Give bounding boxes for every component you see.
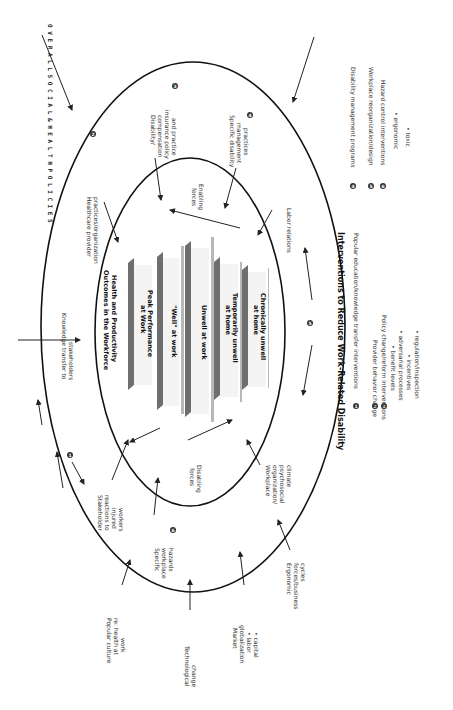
badge-3: 3: [172, 83, 178, 89]
svg-text:5: 5: [369, 184, 372, 189]
legend-item-1: 1 Popular education/knowledge transfer i…: [352, 233, 360, 409]
workplace-org-label-2: organization/: [271, 465, 279, 505]
legend-sub-incentives: • incentives: [406, 354, 413, 390]
labor-relations-label: Labor relations: [286, 208, 293, 253]
stakeholder-reactions-label-2: reactions to: [104, 495, 111, 531]
specific-disability-label-2: management: [235, 123, 243, 164]
market-globalization-label-4: • capital: [252, 632, 260, 658]
outcome-chronically-unwell-2: at home: [252, 305, 260, 336]
diagram-canvas: O V E R A L L S O C I A L & H E A L T H …: [0, 0, 453, 710]
disability-comp-arrow: [155, 158, 161, 200]
popular-culture-label-3: work: [120, 638, 127, 653]
svg-text:4: 4: [351, 184, 354, 189]
market-globalization-arrow: [240, 552, 244, 585]
disability-comp-label-4: and practice: [170, 118, 178, 156]
workplace-org-label-3: psychosocial: [278, 465, 286, 504]
workplace-org-label-4: climate: [286, 465, 293, 488]
svg-text:1: 1: [354, 404, 357, 409]
svg-text:Workplace reorganization/desig: Workplace reorganization/design: [367, 67, 375, 166]
ergonomic-forces-label-2: forces/business: [293, 563, 300, 609]
popular-culture-arrow: [122, 560, 130, 585]
market-globalization-label-3: • labor: [246, 632, 253, 653]
disability-comp-label-3: insurance policy: [163, 110, 171, 159]
svg-text:1: 1: [68, 453, 71, 458]
disability-comp-label-1: Disability/: [149, 115, 157, 146]
ring-arrow-up: [305, 248, 312, 300]
svg-text:Provider behavior change: Provider behavior change: [371, 340, 379, 417]
outcome-temporarily-unwell-2: at home: [224, 305, 232, 336]
ring-arrow-down: [303, 345, 312, 395]
enabling-arrow-2: [130, 428, 160, 442]
outcome-well-at-work: "Well" at work: [170, 305, 178, 358]
disabling-arrow: [188, 420, 232, 440]
svg-text:Policy change/reform intervent: Policy change/reform interventions: [380, 315, 388, 420]
workplace-org-label-1: Workplace: [264, 465, 272, 497]
stakeholder-arrow-2: [72, 462, 84, 484]
legend-sub-adversarial: • adversarial processes: [397, 330, 405, 401]
badge-1-knowledge: 1: [67, 452, 73, 458]
ergonomic-forces-label-3: cycles: [299, 563, 307, 582]
svg-text:5: 5: [308, 321, 311, 326]
technological-change-label-2: change: [190, 665, 198, 687]
badge-6: 6: [170, 527, 176, 533]
legend-item-4: 4 Disability management programs: [349, 67, 357, 189]
legend-item-2: 2 Provider behavior change: [371, 340, 379, 417]
stakeholder-reactions-label-1: Stakeholder: [97, 495, 104, 531]
stakeholder-reactions-label-4: workers: [118, 508, 125, 532]
healthcare-provider-label-2: practices/organization: [92, 197, 100, 264]
badge-5: 5: [307, 320, 313, 326]
enabling-arrow: [170, 210, 240, 228]
badge-4: 4: [247, 112, 253, 118]
legend-item-5: 5 Workplace reorganization/design: [367, 67, 375, 189]
specific-disability-label-1: Specific disability: [228, 115, 236, 168]
badge-1: 2: [90, 131, 96, 137]
overall-policies-banner: O V E R A L L S O C I A L & H E A L T H …: [47, 24, 54, 223]
policy-arrow-left: [42, 35, 72, 110]
policy-arrow-right: [293, 37, 314, 102]
outcome-unwell-at-work: Unwell at work: [200, 305, 208, 360]
stakeholder-reactions-label-3: injured: [110, 508, 118, 529]
legend-item-6: 6 Hazard control interventions: [380, 80, 387, 189]
knowledge-transfer-label-2: stakeholders: [68, 342, 75, 380]
technological-change-label-1: Technological: [183, 645, 191, 687]
svg-text:4: 4: [248, 113, 251, 118]
svg-text:6: 6: [171, 528, 174, 533]
legend-sub-toxic: • toxic: [405, 127, 412, 147]
center-title-line2: Outcomes in the Workforce: [102, 270, 110, 371]
specific-workplace-hazards-1: Specific: [153, 548, 161, 571]
popular-culture-label-2: re: health at: [113, 618, 120, 656]
svg-text:2: 2: [91, 132, 94, 137]
enabling-forces-label-2: forces: [191, 188, 198, 206]
healthcare-provider-label-1: Healthcare provider: [85, 197, 93, 257]
outcome-peak-performance-2: at Work: [139, 305, 147, 334]
svg-text:Hazard control interventions: Hazard control interventions: [380, 80, 387, 165]
legend-sub-regulation: • regulation/inspection: [413, 330, 421, 399]
disability-comp-label-2: compensation: [156, 115, 164, 158]
svg-text:Popular education/knowledge tr: Popular education/knowledge transfer int…: [352, 233, 360, 389]
legend-title: Interventions to Reduce Work-Related Dis…: [336, 232, 345, 451]
center-title-line1: Health and Productivity: [110, 275, 118, 363]
specific-workplace-hazards-2: workplace: [160, 548, 168, 579]
ergonomic-forces-label-1: Ergonomic: [285, 563, 293, 595]
specific-workplace-hazards-3: hazards: [168, 548, 175, 572]
legend-sub-ergonomic: • ergonomic: [392, 112, 400, 149]
popular-culture-label-1: Popular culture: [105, 618, 113, 664]
market-globalization-label-2: globalization: [238, 625, 246, 663]
legend-sub-benefit-levels: • benefit levels: [390, 345, 397, 391]
market-globalization-label-1: Market: [232, 628, 239, 649]
legend-item-3: 3 Policy change/reform interventions: [380, 315, 388, 420]
svg-text:Disability management programs: Disability management programs: [349, 67, 357, 168]
specific-disability-label-3: practices: [242, 128, 250, 155]
svg-text:6: 6: [381, 184, 384, 189]
ring-arrow-left-top: [38, 400, 42, 425]
svg-text:3: 3: [173, 84, 176, 89]
knowledge-transfer-label-1: Knowledge transfer to: [60, 313, 68, 380]
specific-hazards-arrow: [154, 478, 158, 515]
disabling-forces-label-2: forces: [189, 468, 196, 486]
